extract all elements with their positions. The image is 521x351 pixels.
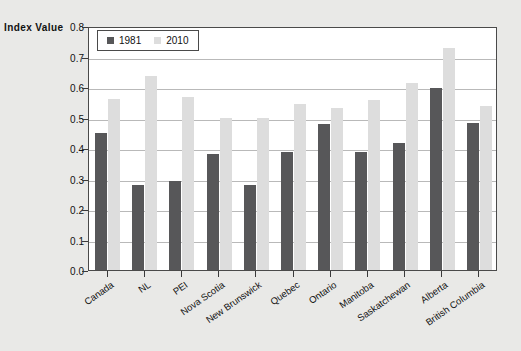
bar-1981-new-brunswick bbox=[244, 185, 256, 270]
x-axis-tick-mark bbox=[330, 271, 331, 277]
y-axis-tick-mark bbox=[82, 119, 88, 120]
x-axis-tick-label: Canada bbox=[82, 279, 116, 307]
bar-1981-saskatchewan bbox=[393, 143, 405, 270]
y-axis-tick-label: 0.4 bbox=[52, 144, 84, 155]
y-axis-tick-label: 0.6 bbox=[52, 83, 84, 94]
x-axis-tick-label: Quebec bbox=[268, 279, 302, 307]
bar-2010-pei bbox=[182, 97, 194, 270]
y-axis-tick-label: 0.3 bbox=[52, 174, 84, 185]
bar-2010-saskatchewan bbox=[406, 83, 418, 270]
bar-1981-quebec bbox=[281, 152, 293, 270]
x-axis-tick-label: Alberta bbox=[419, 279, 450, 305]
x-axis-tick-mark bbox=[107, 271, 108, 277]
legend-entry-2010: 2010 bbox=[154, 35, 188, 46]
legend-label: 1981 bbox=[119, 35, 141, 46]
x-axis-tick-mark bbox=[255, 271, 256, 277]
bar-1981-pei bbox=[169, 181, 181, 270]
x-axis-tick-mark bbox=[404, 271, 405, 277]
y-axis-tick-label: 0.8 bbox=[52, 22, 84, 33]
bar-chart-figure: Index Value 0.00.10.20.30.40.50.60.70.8 … bbox=[0, 0, 521, 351]
gridline bbox=[89, 59, 496, 60]
y-axis-tick-mark bbox=[82, 149, 88, 150]
y-axis-tick-mark bbox=[82, 210, 88, 211]
bar-2010-ontario bbox=[331, 108, 343, 270]
x-axis-tick-label: Ontario bbox=[306, 279, 338, 306]
bar-2010-british-columbia bbox=[480, 106, 492, 270]
y-axis-tick-label: 0.5 bbox=[52, 113, 84, 124]
bar-1981-alberta bbox=[430, 88, 442, 270]
chart-legend: 19812010 bbox=[97, 30, 199, 51]
bar-2010-new-brunswick bbox=[257, 118, 269, 270]
x-axis-tick-mark bbox=[144, 271, 145, 277]
bar-2010-nova-scotia bbox=[220, 118, 232, 270]
y-axis-tick-label: 0.7 bbox=[52, 52, 84, 63]
x-axis-tick-mark bbox=[293, 271, 294, 277]
y-axis-tick-mark bbox=[82, 271, 88, 272]
bar-1981-manitoba bbox=[355, 152, 367, 270]
legend-label: 2010 bbox=[166, 35, 188, 46]
bar-1981-nl bbox=[132, 185, 144, 270]
x-axis-tick-mark bbox=[441, 271, 442, 277]
y-axis-tick-mark bbox=[82, 241, 88, 242]
y-axis-tick-mark bbox=[82, 180, 88, 181]
legend-swatch-icon bbox=[107, 37, 114, 44]
bar-1981-ontario bbox=[318, 124, 330, 270]
bar-2010-alberta bbox=[443, 48, 455, 270]
x-axis-tick-label: PEI bbox=[171, 279, 190, 297]
legend-entry-1981: 1981 bbox=[107, 35, 141, 46]
y-axis-tick-mark bbox=[82, 58, 88, 59]
plot-area bbox=[88, 27, 497, 271]
x-axis-tick-mark bbox=[478, 271, 479, 277]
y-axis-tick-label: 0.1 bbox=[52, 235, 84, 246]
x-axis-tick-label: NL bbox=[136, 279, 152, 295]
legend-swatch-icon bbox=[154, 37, 161, 44]
bar-2010-canada bbox=[108, 99, 120, 270]
y-axis-tick-label: 0.0 bbox=[52, 266, 84, 277]
bar-1981-nova-scotia bbox=[207, 154, 219, 270]
y-axis-tick-label: 0.2 bbox=[52, 205, 84, 216]
bar-1981-british-columbia bbox=[467, 123, 479, 270]
y-axis-tick-labels: 0.00.10.20.30.40.50.60.70.8 bbox=[48, 0, 84, 351]
x-axis-tick-mark bbox=[367, 271, 368, 277]
bar-1981-canada bbox=[95, 133, 107, 270]
bar-2010-manitoba bbox=[368, 100, 380, 270]
y-axis-tick-mark bbox=[82, 27, 88, 28]
bar-2010-quebec bbox=[294, 104, 306, 270]
x-axis-tick-mark bbox=[218, 271, 219, 277]
bar-2010-nl bbox=[145, 76, 157, 270]
x-axis-tick-mark bbox=[181, 271, 182, 277]
y-axis-tick-mark bbox=[82, 88, 88, 89]
